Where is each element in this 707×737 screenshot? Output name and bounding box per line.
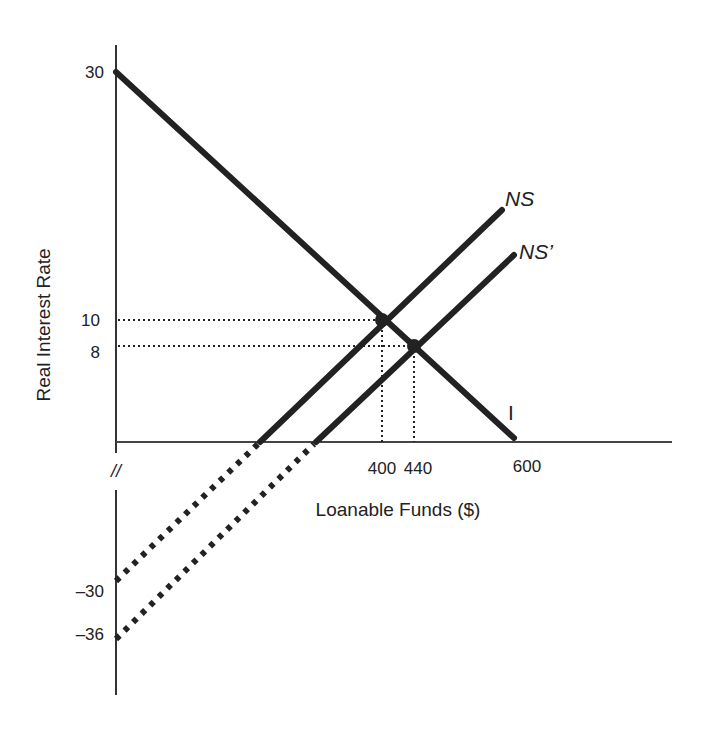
y-tick-neg36: –36 [76, 625, 104, 644]
y-tick-neg30: –30 [76, 582, 104, 601]
x-tick-440: 440 [404, 459, 432, 478]
ns-curve-extension [116, 444, 258, 581]
axis-break-mark: // [109, 461, 123, 481]
x-axis-title: Loanable Funds ($) [316, 499, 481, 520]
curve-label-ns: NS [505, 187, 534, 210]
y-tick-10: 10 [81, 311, 100, 330]
y-tick-30: 30 [85, 63, 104, 82]
x-tick-600: 600 [513, 457, 541, 476]
curve-label-ns-prime: NS’ [519, 240, 553, 263]
equilibrium-point-new [407, 339, 421, 353]
ns-prime-curve-extension [116, 444, 314, 639]
y-tick-8: 8 [91, 343, 100, 362]
loanable-funds-chart: 30 10 8 –30 –36 // 400 440 600 Loanable … [0, 0, 707, 737]
y-axis-title: Real Interest Rate [33, 248, 54, 401]
curve-label-i: I [508, 401, 514, 424]
equilibrium-point-original [375, 313, 389, 327]
x-tick-400: 400 [368, 459, 396, 478]
